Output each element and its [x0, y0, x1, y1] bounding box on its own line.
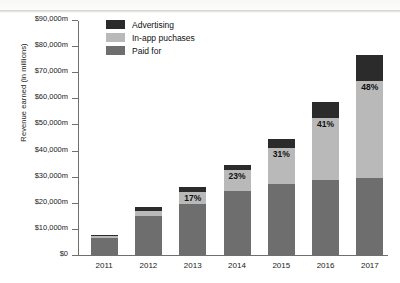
bar-segment-in-app-puchases[interactable] — [91, 236, 118, 237]
x-axis-label: 2015 — [272, 261, 290, 270]
bar-segment-paid-for[interactable] — [312, 180, 339, 256]
bar-segment-advertising[interactable] — [91, 235, 118, 236]
legend-item-label: In-app puchases — [132, 33, 195, 43]
legend-item-label: Paid for — [132, 46, 161, 56]
x-axis-label: 2017 — [361, 261, 379, 270]
bar-group[interactable]: 17%2013 — [179, 187, 206, 256]
bar-segment-advertising[interactable] — [179, 187, 206, 192]
bar-group[interactable]: 23%2014 — [224, 165, 251, 256]
legend-swatch-icon — [106, 20, 125, 29]
y-axis-tick-label: $0 — [60, 249, 68, 258]
y-axis-tick-label: $50,000m — [35, 118, 68, 127]
bar-segment-paid-for[interactable] — [179, 204, 206, 256]
bar-group[interactable]: 2012 — [135, 207, 162, 256]
bar-segment-advertising[interactable] — [312, 102, 339, 118]
bar-segment-in-app-puchases[interactable] — [135, 211, 162, 216]
bar-group[interactable]: 2011 — [91, 235, 118, 256]
x-axis-label: 2013 — [184, 261, 202, 270]
y-axis-tick-label: $80,000m — [35, 40, 68, 49]
chart-legend: AdvertisingIn-app puchasesPaid for — [106, 18, 195, 57]
bar-group[interactable]: 31%2015 — [268, 139, 295, 257]
chart-page: Revenue earned (in millions) $0$10,000m$… — [0, 0, 400, 283]
x-axis-label: 2012 — [140, 261, 158, 270]
y-axis-tick-label: $90,000m — [35, 14, 68, 23]
bar-group[interactable]: 41%2016 — [312, 102, 339, 256]
bar-group[interactable]: 48%2017 — [356, 55, 383, 256]
bar-segment-paid-for[interactable] — [268, 184, 295, 256]
x-axis-label: 2011 — [96, 261, 113, 270]
x-axis-label: 2014 — [228, 261, 246, 270]
x-axis-label: 2016 — [317, 261, 335, 270]
bar-segment-advertising[interactable] — [356, 55, 383, 81]
legend-item[interactable]: Paid for — [106, 44, 195, 57]
legend-item-label: Advertising — [132, 20, 174, 30]
bar-segment-in-app-puchases[interactable] — [268, 148, 295, 185]
legend-swatch-icon — [106, 33, 125, 42]
legend-swatch-icon — [106, 46, 125, 55]
bar-segment-in-app-puchases[interactable] — [312, 118, 339, 181]
bar-segment-paid-for[interactable] — [224, 191, 251, 256]
legend-item[interactable]: Advertising — [106, 18, 195, 31]
bar-segment-paid-for[interactable] — [356, 178, 383, 256]
bar-segment-in-app-puchases[interactable] — [356, 81, 383, 178]
y-axis-tick-label: $60,000m — [35, 92, 68, 101]
bar-segment-advertising[interactable] — [135, 207, 162, 211]
bar-segment-in-app-puchases[interactable] — [179, 192, 206, 204]
y-axis-tick-label: $20,000m — [35, 197, 68, 206]
bar-segment-paid-for[interactable] — [135, 216, 162, 256]
bar-segment-in-app-puchases[interactable] — [224, 170, 251, 191]
y-axis-tick-label: $30,000m — [35, 171, 68, 180]
y-axis-tick-label: $10,000m — [35, 223, 68, 232]
legend-item[interactable]: In-app puchases — [106, 31, 195, 44]
y-axis-title: Revenue earned (in millions) — [19, 18, 28, 168]
bar-segment-paid-for[interactable] — [91, 238, 118, 256]
bar-segment-advertising[interactable] — [268, 139, 295, 148]
y-axis-tick-label: $40,000m — [35, 145, 68, 154]
y-axis-tick-label: $70,000m — [35, 66, 68, 75]
bar-segment-advertising[interactable] — [224, 165, 251, 170]
